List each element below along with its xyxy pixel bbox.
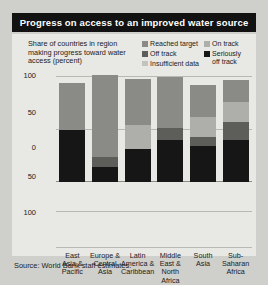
- bar-segment: [223, 122, 249, 140]
- x-axis-label-4: South Asia: [186, 252, 220, 268]
- bar-segment: [92, 157, 118, 168]
- title-banner: Progress on access to an improved water …: [12, 13, 256, 32]
- bar-segment: [190, 85, 216, 117]
- bar-segment: [59, 83, 85, 129]
- legend-swatch-reached_target: [142, 41, 148, 47]
- legend-column-right: On trackSeriously off track: [204, 40, 254, 68]
- bar-segment: [125, 125, 151, 149]
- x-axis-label-5: Sub- Saharan Africa: [219, 252, 253, 277]
- legend-label-insufficient_data: Insufficient data: [150, 60, 199, 68]
- bar-0: [59, 83, 85, 182]
- y-axis-tick-2: 0: [10, 144, 36, 152]
- bar-segment: [223, 140, 249, 182]
- bar-segment: [223, 80, 249, 102]
- y-axis-tick-3: 50: [10, 173, 36, 181]
- bar-5: [223, 80, 249, 182]
- chart-card: Share of countries in region making prog…: [12, 34, 256, 256]
- bar-segment: [223, 102, 249, 122]
- source-note: Source: World Bank staff estimates.: [14, 261, 131, 270]
- legend-item-reached_target: Reached target: [142, 40, 202, 48]
- bar-segment: [157, 77, 183, 128]
- x-axis-label-3: Middle East & North Africa: [153, 252, 187, 285]
- bar-segment: [92, 75, 118, 157]
- y-axis-tick-1: 50: [10, 109, 36, 117]
- legend-item-insufficient_data: Insufficient data: [142, 60, 202, 68]
- bar-segment: [125, 79, 151, 125]
- legend-label-reached_target: Reached target: [150, 40, 198, 48]
- bar-2: [125, 79, 151, 182]
- bar-segment: [157, 140, 183, 182]
- gridline-100: [56, 76, 252, 77]
- bar-segment: [92, 167, 118, 182]
- legend-item-seriously_off_track: Seriously off track: [204, 50, 254, 67]
- legend-swatch-off_track: [142, 51, 148, 57]
- chart-subtitle: Share of countries in region making prog…: [28, 40, 140, 66]
- y-axis-tick-4: 100: [10, 209, 36, 217]
- legend-swatch-on_track: [204, 41, 210, 47]
- legend-column-left: Reached targetOff trackInsufficient data: [142, 40, 202, 69]
- y-axis-tick-0: 100: [10, 72, 36, 80]
- plot-area: [56, 76, 252, 182]
- bar-3: [157, 77, 183, 182]
- gridline-lower-0: [56, 211, 252, 212]
- bar-segment: [59, 130, 85, 183]
- bar-1: [92, 75, 118, 182]
- bar-segment: [125, 149, 151, 182]
- bar-4: [190, 85, 216, 182]
- bar-segment: [190, 117, 216, 137]
- legend-item-off_track: Off track: [142, 50, 202, 58]
- bar-segment: [190, 137, 216, 146]
- bar-segment: [190, 146, 216, 182]
- bar-segment: [157, 128, 183, 140]
- legend-label-seriously_off_track: Seriously off track: [212, 50, 241, 67]
- legend-item-on_track: On track: [204, 40, 254, 48]
- legend-label-on_track: On track: [212, 40, 238, 48]
- legend-swatch-insufficient_data: [142, 61, 148, 67]
- legend-label-off_track: Off track: [150, 50, 176, 58]
- legend-swatch-seriously_off_track: [204, 51, 210, 57]
- chart-title: Progress on access to an improved water …: [12, 13, 256, 32]
- gridline-lower-1: [56, 247, 252, 248]
